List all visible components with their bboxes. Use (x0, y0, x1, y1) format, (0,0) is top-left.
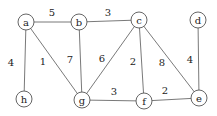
edge-weight-a-b: 5 (49, 7, 55, 18)
edge-weight-c-e: 8 (159, 57, 165, 68)
node-b: b (71, 14, 87, 30)
edge-weight-b-g: 7 (67, 54, 73, 65)
weighted-graph-diagram: 53417628432 abcdhgfe (0, 0, 217, 116)
edge-weight-c-g: 6 (99, 53, 105, 64)
node-label: d (195, 15, 202, 26)
edge-weight-a-g: 1 (40, 56, 46, 67)
node-label: e (196, 93, 202, 104)
node-f: f (136, 93, 152, 109)
node-e: e (191, 90, 207, 106)
node-label: c (136, 15, 142, 26)
edge-b-g (79, 22, 82, 100)
node-label: a (23, 17, 29, 28)
edge-b-c (79, 20, 139, 22)
edge-a-g (26, 22, 82, 100)
node-d: d (190, 12, 206, 28)
edge-weight-b-c: 3 (105, 7, 111, 18)
edge-weights-layer: 53417628432 (8, 7, 193, 97)
edge-a-h (24, 22, 26, 99)
node-g: g (74, 92, 90, 108)
node-a: a (18, 14, 34, 30)
edge-weight-f-e: 2 (162, 85, 168, 96)
node-label: b (76, 17, 82, 28)
edge-c-f (139, 20, 144, 101)
edge-weight-a-h: 4 (8, 57, 14, 68)
edge-g-f (82, 100, 144, 101)
edge-weight-g-f: 3 (111, 86, 117, 97)
node-label: h (21, 94, 28, 105)
edge-d-e (198, 20, 199, 98)
node-label: g (79, 95, 86, 106)
edge-weight-d-e: 4 (187, 54, 193, 65)
node-h: h (16, 91, 32, 107)
edge-weight-c-f: 2 (130, 56, 136, 67)
node-c: c (131, 12, 147, 28)
